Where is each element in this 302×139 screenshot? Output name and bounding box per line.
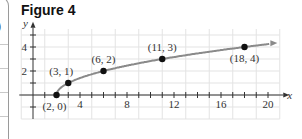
x-tick-label: 8 <box>124 98 130 110</box>
y-tick-label: 2 <box>22 65 28 77</box>
chart-plot: xy 4812162024 (2, 0)(3, 1)(6, 2)(11, 3)(… <box>0 0 302 139</box>
x-tick-label: 16 <box>216 98 228 110</box>
y-axis-arrow-icon <box>31 22 36 28</box>
data-point <box>65 80 71 86</box>
curve-arrow-icon <box>270 40 277 46</box>
data-point-label: (6, 2) <box>92 53 116 66</box>
x-tick-label: 12 <box>169 98 180 110</box>
data-point <box>100 68 106 74</box>
data-point <box>53 92 59 98</box>
data-point <box>241 44 247 50</box>
x-tick-label: 4 <box>77 98 83 110</box>
x-tick-label: 20 <box>263 98 275 110</box>
x-axis-label: x <box>286 89 292 101</box>
data-points: (2, 0)(3, 1)(6, 2)(11, 3)(18, 4) <box>43 41 260 113</box>
data-point <box>159 56 165 62</box>
y-tick-label: 4 <box>22 41 28 53</box>
data-point-label: (18, 4) <box>230 52 260 65</box>
data-point-label: (2, 0) <box>43 100 67 113</box>
y-axis-label: y <box>22 17 28 29</box>
data-point-label: (3, 1) <box>49 65 73 78</box>
data-point-label: (11, 3) <box>148 41 177 54</box>
